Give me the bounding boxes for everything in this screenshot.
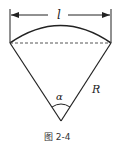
radius-label: R — [91, 83, 100, 96]
figure-caption: 图 2-4 — [44, 132, 71, 142]
angle-arc — [52, 104, 70, 107]
arc-length-label: l — [57, 8, 61, 22]
angle-label: α — [56, 91, 63, 102]
right-radius — [61, 43, 111, 121]
left-radius — [10, 43, 61, 121]
sector-arc — [10, 26, 111, 44]
sector-diagram: l R α 图 2-4 — [0, 0, 121, 145]
